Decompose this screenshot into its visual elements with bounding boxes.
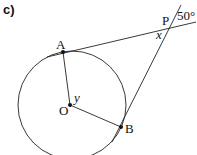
point-b <box>119 125 123 129</box>
tangent-line-ap <box>47 22 196 57</box>
part-label: c) <box>3 2 15 17</box>
point-o <box>68 103 72 107</box>
radius-oa <box>63 52 70 105</box>
circle <box>18 51 126 155</box>
label-o: O <box>59 103 68 118</box>
angle-x: x <box>155 27 162 42</box>
angle-50: 50° <box>177 8 195 23</box>
label-b: B <box>125 121 134 136</box>
geometry-diagram: c) A O B P 50° x y <box>0 0 197 155</box>
radius-ob <box>70 105 121 127</box>
label-a: A <box>56 37 66 52</box>
label-p: P <box>162 13 169 28</box>
tangent-line-bp <box>112 5 181 142</box>
angle-y: y <box>72 90 80 105</box>
